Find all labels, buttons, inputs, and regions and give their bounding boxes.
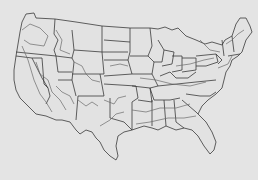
us-map — [0, 0, 258, 180]
us-map-svg — [0, 0, 258, 180]
